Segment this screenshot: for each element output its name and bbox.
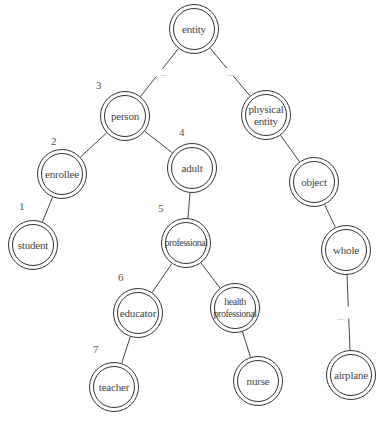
node-airplane: airplane [326,350,376,400]
node-health-professional: health professional [210,283,260,333]
node-educator: educator [113,288,163,338]
edge-whole-airplane [349,319,350,351]
node-label: physical entity [248,103,283,127]
node-label: educator [120,307,156,319]
edge-professional-health_professional [201,263,220,288]
node-whole: whole [321,225,371,275]
node-physical-entity: physical entity [241,90,291,140]
node-student: student [8,220,58,270]
edge-entity-person [141,76,157,96]
node-label: adult [182,162,203,174]
edge-educator-teacher [122,337,131,363]
path-step-number: 4 [179,126,185,138]
edge-object-whole [325,205,336,228]
tree-edges [0,0,383,422]
node-professional: professional [161,218,211,268]
elision-ellipsis: ... [337,312,344,322]
node-entity: entity [169,4,219,54]
path-step-number: 2 [51,135,57,147]
node-label: enrollee [45,168,79,180]
elision-ellipsis: ... [226,68,233,78]
node-label: person [111,110,139,122]
edge-adult-professional [188,193,190,218]
node-label: nurse [247,375,270,387]
node-enrollee: enrollee [37,149,87,199]
node-label: object [301,176,327,188]
node-label: entity [182,23,206,35]
node-nurse: nurse [233,356,283,406]
edge-entity-physical_entity [210,48,227,68]
edge-entity-person [163,49,179,69]
edge-professional-educator [152,264,172,293]
path-step-number: 5 [158,202,164,214]
path-step-number: 1 [19,200,25,212]
node-teacher: teacher [89,362,139,412]
edge-entity-physical_entity [233,76,250,96]
path-step-number: 7 [93,343,99,355]
edge-person-enrollee [80,133,106,157]
node-label: health professional [214,296,257,320]
edge-person-adult [145,131,173,152]
node-label: professional [165,237,208,249]
elision-ellipsis: ... [160,68,167,78]
node-label: student [18,239,48,251]
path-step-number: 3 [96,79,102,91]
path-step-number: 6 [118,271,124,283]
node-label: airplane [334,369,368,381]
edge-health_professional-nurse [243,332,251,357]
edge-enrollee-student [42,197,52,222]
node-object: object [289,157,339,207]
edge-physical_entity-object [281,135,300,161]
node-label: teacher [99,381,129,393]
node-person: person [100,91,150,141]
node-adult: adult [167,143,217,193]
node-label: whole [333,244,359,256]
edge-whole-airplane [347,275,348,307]
taxonomy-tree-diagram: entitypersonphysical entityenrolleeadult… [0,0,383,422]
